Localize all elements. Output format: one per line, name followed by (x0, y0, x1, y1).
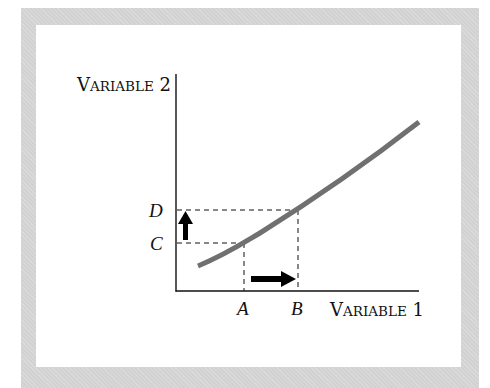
y-tick-c: C (150, 233, 163, 254)
x-axis-label: VARIABLE 1 (329, 299, 424, 320)
right-arrow-icon (251, 271, 296, 287)
up-arrow-icon (178, 211, 193, 240)
y-tick-d: D (148, 200, 163, 221)
x-tick-a: A (235, 298, 249, 319)
y-axis-label: VARIABLE 2 (76, 74, 171, 95)
relationship-curve (198, 122, 419, 266)
x-tick-b: B (291, 298, 303, 319)
